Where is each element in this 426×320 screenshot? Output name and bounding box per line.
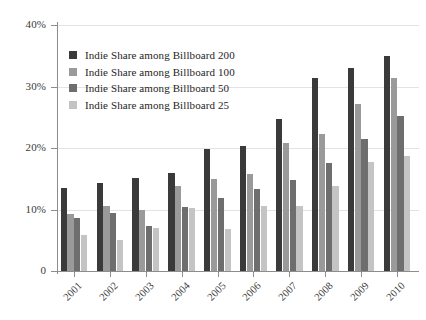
bar[interactable] <box>67 214 73 271</box>
legend-label: Indie Share among Billboard 100 <box>85 66 235 78</box>
legend-label: Indie Share among Billboard 25 <box>85 99 229 111</box>
legend-swatch-icon <box>69 84 77 92</box>
bar[interactable] <box>211 179 217 271</box>
x-axis-tick-label: 2002 <box>92 280 120 308</box>
legend-swatch-icon <box>69 51 77 59</box>
x-axis-tick-mark <box>361 272 362 277</box>
legend-item[interactable]: Indie Share among Billboard 50 <box>69 80 299 97</box>
bar-group <box>348 25 375 271</box>
bar[interactable] <box>218 198 224 271</box>
legend-swatch-icon <box>69 101 77 109</box>
bar[interactable] <box>97 183 103 271</box>
bar[interactable] <box>225 229 231 271</box>
bar[interactable] <box>391 78 397 271</box>
y-axis-tick-label: 10% <box>2 204 46 215</box>
bar[interactable] <box>332 186 338 271</box>
bar[interactable] <box>175 186 181 271</box>
bar[interactable] <box>368 162 374 271</box>
legend-label: Indie Share among Billboard 200 <box>85 49 235 61</box>
bar[interactable] <box>290 180 296 271</box>
legend-label: Indie Share among Billboard 50 <box>85 82 229 94</box>
legend-item[interactable]: Indie Share among Billboard 100 <box>69 64 299 81</box>
x-axis-tick-mark <box>397 272 398 277</box>
y-axis-line <box>57 22 58 274</box>
bar[interactable] <box>103 206 109 271</box>
bar[interactable] <box>355 104 361 271</box>
bar[interactable] <box>74 218 80 271</box>
bar[interactable] <box>348 68 354 271</box>
x-axis-tick-label: 2007 <box>272 280 300 308</box>
x-axis-tick-label: 2004 <box>164 280 192 308</box>
bar[interactable] <box>132 178 138 271</box>
bar[interactable] <box>276 119 282 271</box>
y-axis-tick-mark <box>51 148 57 149</box>
bar[interactable] <box>326 163 332 271</box>
x-axis-tick-label: 2008 <box>307 280 335 308</box>
x-axis-tick-label: 2010 <box>379 280 407 308</box>
x-axis-tick-mark <box>74 272 75 277</box>
bar[interactable] <box>361 139 367 271</box>
chart-figure: 010%20%30%40% 20012002200320042005200620… <box>0 0 426 320</box>
y-axis-tick-mark <box>51 25 57 26</box>
x-axis-line <box>57 271 419 272</box>
y-axis-tick-mark <box>51 210 57 211</box>
legend-item[interactable]: Indie Share among Billboard 200 <box>69 47 299 64</box>
x-axis-tick-label: 2005 <box>200 280 228 308</box>
bar-group <box>384 25 411 271</box>
legend-swatch-icon <box>69 68 77 76</box>
bar-group <box>312 25 339 271</box>
x-axis-tick-label: 2003 <box>128 280 156 308</box>
bar[interactable] <box>254 189 260 271</box>
bar[interactable] <box>139 210 145 271</box>
x-axis-tick-mark <box>218 272 219 277</box>
y-axis-tick-label: 0 <box>2 265 46 276</box>
bar[interactable] <box>182 207 188 271</box>
bar[interactable] <box>81 235 87 271</box>
bar[interactable] <box>296 206 302 271</box>
bar[interactable] <box>261 206 267 271</box>
bar[interactable] <box>247 174 253 271</box>
x-axis-tick-label: 2009 <box>343 280 371 308</box>
x-axis-tick-mark <box>253 272 254 277</box>
y-axis-tick-mark <box>51 87 57 88</box>
bar[interactable] <box>384 56 390 271</box>
bar[interactable] <box>189 208 195 271</box>
x-axis-tick-mark <box>325 272 326 277</box>
legend-item[interactable]: Indie Share among Billboard 25 <box>69 97 299 114</box>
bar[interactable] <box>240 146 246 271</box>
x-axis-tick-label: 2006 <box>236 280 264 308</box>
chart-legend: Indie Share among Billboard 200Indie Sha… <box>69 47 299 113</box>
bar[interactable] <box>110 213 116 271</box>
bar[interactable] <box>404 156 410 271</box>
bar[interactable] <box>117 240 123 271</box>
bar[interactable] <box>319 134 325 271</box>
bar[interactable] <box>397 116 403 271</box>
x-axis-tick-mark <box>182 272 183 277</box>
x-axis-tick-mark <box>110 272 111 277</box>
bar[interactable] <box>204 149 210 271</box>
bar[interactable] <box>168 173 174 271</box>
bar[interactable] <box>61 188 67 271</box>
x-axis-tick-mark <box>289 272 290 277</box>
bar[interactable] <box>146 226 152 272</box>
bar[interactable] <box>283 143 289 271</box>
y-axis-tick-label: 30% <box>2 81 46 92</box>
x-axis-tick-mark <box>146 272 147 277</box>
bar[interactable] <box>312 78 318 271</box>
x-axis-tick-label: 2001 <box>56 280 84 308</box>
y-axis-tick-label: 40% <box>2 19 46 30</box>
bar[interactable] <box>153 228 159 271</box>
y-axis-tick-label: 20% <box>2 142 46 153</box>
